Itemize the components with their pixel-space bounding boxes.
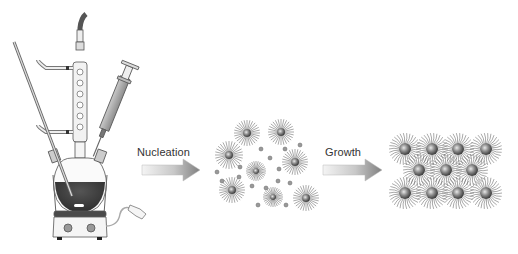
hotplate-body xyxy=(53,217,107,237)
dispersed-nanocrystals xyxy=(215,119,319,211)
reaction-apparatus xyxy=(14,14,146,240)
monomer-dot xyxy=(284,203,288,207)
reaction-liquid xyxy=(55,182,105,213)
monomer-dot xyxy=(298,143,302,147)
capped-nanocrystal xyxy=(268,119,294,145)
nanocrystal-superlattice xyxy=(389,133,502,209)
monomer-dot xyxy=(250,184,254,188)
capped-nanocrystal xyxy=(442,133,474,165)
hotplate-top xyxy=(54,211,106,217)
right-neck-adapter xyxy=(94,149,107,163)
power-plug xyxy=(128,205,146,219)
monomer-dot xyxy=(277,167,281,171)
stir-bar xyxy=(74,204,84,207)
syringe xyxy=(85,60,139,159)
capped-nanocrystal xyxy=(246,161,266,181)
hotplate-knob-right xyxy=(87,224,95,232)
monomer-dot xyxy=(283,147,287,151)
capped-nanocrystal xyxy=(234,120,260,146)
hotplate-knob-left xyxy=(64,224,72,232)
diagram-canvas xyxy=(0,0,518,254)
nucleation-label: Nucleation xyxy=(137,146,190,158)
growth-label: Growth xyxy=(325,146,361,158)
monomer-dot xyxy=(237,175,241,179)
capped-nanocrystal xyxy=(282,149,308,175)
power-cable xyxy=(106,208,130,226)
condenser-adapter xyxy=(77,30,83,42)
capped-nanocrystal xyxy=(215,141,243,169)
monomer-dot xyxy=(276,179,280,183)
growth-arrow xyxy=(323,159,382,181)
monomer-dot xyxy=(268,156,272,160)
monomer-dot xyxy=(256,203,260,207)
monomer-dot xyxy=(220,179,224,183)
monomer-dot xyxy=(288,181,292,185)
monomer-dot xyxy=(259,147,263,151)
flask-center-neck xyxy=(75,142,85,158)
capped-nanocrystal xyxy=(470,133,502,165)
monomer-dot xyxy=(215,170,219,174)
monomer-dot xyxy=(264,186,268,190)
monomer-dot xyxy=(238,165,242,169)
capped-nanocrystal xyxy=(293,185,319,211)
nucleation-arrow xyxy=(142,159,200,181)
